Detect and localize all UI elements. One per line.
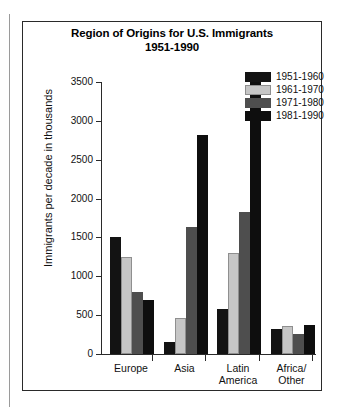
legend-item[interactable]: 1961-1970 — [245, 83, 337, 96]
y-axis-tick — [96, 354, 102, 355]
bar — [121, 257, 132, 354]
legend-label: 1971-1980 — [276, 97, 324, 108]
legend: 1951-19601961-19701971-19801981-1990 — [245, 70, 337, 122]
bar — [186, 227, 197, 354]
x-axis-tick — [259, 355, 260, 361]
bar — [197, 135, 208, 354]
legend-label: 1951-1960 — [276, 71, 324, 82]
x-axis-tick-label: Africa/ Other — [262, 363, 322, 386]
x-axis-line — [101, 354, 316, 355]
bar — [304, 325, 315, 354]
bar — [271, 329, 282, 354]
bar — [143, 300, 154, 354]
bar — [164, 342, 175, 354]
bar-group — [110, 82, 154, 354]
bar — [110, 237, 121, 354]
y-axis-tick-label: 1000 — [49, 270, 93, 281]
chart-title-line-1: Region of Origins for U.S. Immigrants — [23, 27, 321, 41]
chart-frame: Region of Origins for U.S. Immigrants 19… — [22, 21, 322, 391]
legend-swatch — [245, 111, 271, 121]
y-axis-tick-label: 0 — [49, 348, 93, 359]
bar — [217, 309, 228, 354]
y-axis-tick-label: 2000 — [49, 193, 93, 204]
legend-swatch — [245, 98, 271, 108]
chart-title-line-2: 1951-1990 — [23, 41, 321, 55]
y-axis-tick-label: 3500 — [49, 76, 93, 87]
x-axis-tick-label: Latin America — [208, 363, 268, 386]
bar — [132, 292, 143, 354]
bar — [293, 334, 304, 354]
y-axis-tick-label: 2500 — [49, 154, 93, 165]
bar — [228, 253, 239, 354]
legend-swatch — [245, 85, 271, 95]
legend-item[interactable]: 1951-1960 — [245, 70, 337, 83]
bar-group — [271, 82, 315, 354]
x-axis-tick-label: Europe — [101, 363, 161, 375]
bars-layer — [102, 82, 316, 354]
bar — [282, 326, 293, 354]
chart-title: Region of Origins for U.S. Immigrants 19… — [23, 27, 321, 54]
y-axis-tick-label: 3000 — [49, 115, 93, 126]
legend-label: 1981-1990 — [276, 110, 324, 121]
bar-group — [217, 82, 261, 354]
bar — [175, 318, 186, 354]
x-axis-tick-label: Asia — [155, 363, 215, 375]
bar — [239, 212, 250, 354]
x-axis-tick — [152, 355, 153, 361]
bar — [250, 82, 261, 354]
legend-item[interactable]: 1971-1980 — [245, 96, 337, 109]
y-axis-tick-label: 1500 — [49, 231, 93, 242]
y-axis-tick-labels: 0500100015002000250030003500 — [49, 82, 93, 355]
plot-area: 0500100015002000250030003500 EuropeAsiaL… — [101, 82, 315, 354]
legend-swatch — [245, 72, 271, 82]
x-axis-tick — [205, 355, 206, 361]
page-scan-edge — [9, 14, 10, 407]
bar-group — [164, 82, 208, 354]
legend-item[interactable]: 1981-1990 — [245, 109, 337, 122]
x-axis-tick — [312, 355, 313, 361]
y-axis-tick-label: 500 — [49, 309, 93, 320]
legend-label: 1961-1970 — [276, 84, 324, 95]
